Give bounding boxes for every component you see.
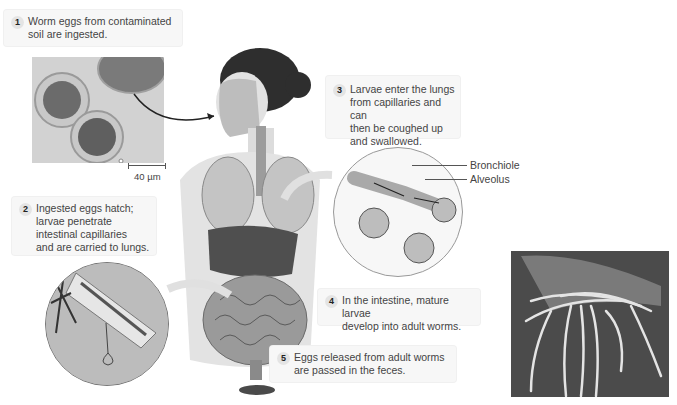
step-2-text: Ingested eggs hatch; larvae penetrate in…	[36, 202, 149, 254]
step-3-text: Larvae enter the lungs from capillaries …	[350, 83, 460, 148]
step-3-number: 3	[333, 84, 346, 97]
villus-larva-icon	[46, 263, 168, 385]
worms-icon	[511, 251, 669, 397]
body-icon	[170, 40, 330, 395]
step-4-text: In the intestine, mature larvae develop …	[342, 294, 480, 333]
bronchiole-label: Bronchiole	[470, 159, 520, 171]
bronchiole-alveoli-icon	[334, 148, 462, 276]
scale-bar	[128, 163, 166, 169]
alveolus-label: Alveolus	[470, 173, 510, 185]
step-1-callout: 1 Worm eggs from contaminated soil are i…	[4, 10, 182, 46]
intestine-zoom-arrow-icon	[160, 275, 235, 305]
scale-bar-label: 40 µm	[134, 171, 161, 182]
lung-detail-circle	[333, 147, 463, 277]
step-2-callout: 2 Ingested eggs hatch; larvae penetrate …	[12, 197, 156, 255]
human-body-illustration	[170, 40, 330, 395]
step-1-text: Worm eggs from contaminated soil are ing…	[28, 15, 171, 41]
intestine-detail-circle	[45, 262, 169, 386]
step-5-text: Eggs released from adult worms are passe…	[294, 351, 445, 377]
step-1-number: 1	[11, 16, 24, 29]
step-5-callout: 5 Eggs released from adult worms are pas…	[270, 346, 456, 382]
step-3-callout: 3 Larvae enter the lungs from capillarie…	[326, 76, 460, 138]
step-5-number: 5	[277, 352, 290, 365]
bronchiole-leader-line	[412, 165, 467, 166]
lung-zoom-arrow-icon	[280, 165, 340, 205]
step-4-callout: 4 In the intestine, mature larvae develo…	[318, 289, 480, 325]
alveolus-leader-line	[425, 179, 467, 180]
adult-worms-photo	[511, 251, 669, 397]
step-4-number: 4	[325, 295, 338, 308]
step-2-number: 2	[19, 203, 32, 216]
